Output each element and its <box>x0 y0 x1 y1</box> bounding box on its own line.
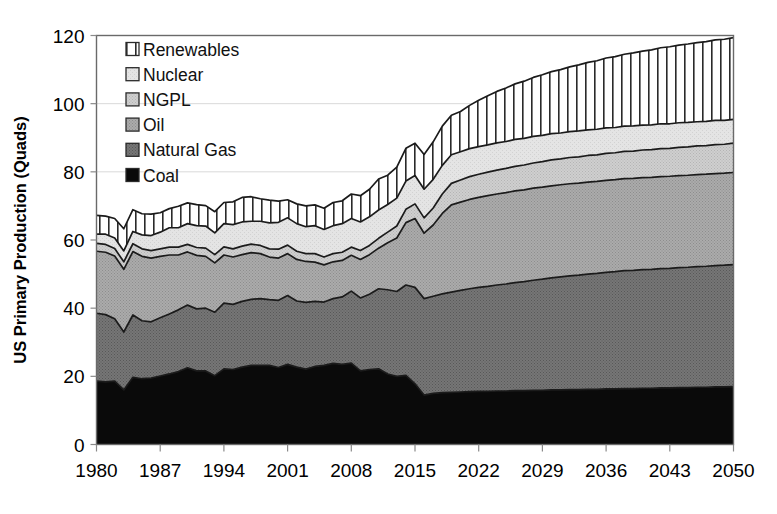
legend-label: Nuclear <box>143 65 203 85</box>
y-tick-label: 0 <box>74 435 85 456</box>
chart-figure: 020406080100120 198019871994200120082015… <box>0 0 777 514</box>
legend-label: Oil <box>143 115 164 135</box>
y-tick-label: 20 <box>63 366 84 387</box>
legend-swatch-icon <box>126 169 139 182</box>
y-tick-label: 80 <box>63 162 84 183</box>
legend-swatch-icon <box>126 93 139 106</box>
x-tick-label: 2022 <box>458 460 500 481</box>
legend-label: Natural Gas <box>143 140 237 160</box>
x-tick-label: 2015 <box>394 460 436 481</box>
x-tick-label: 2043 <box>649 460 691 481</box>
x-tick-label: 2001 <box>266 460 308 481</box>
stacked-area-chart: 020406080100120 198019871994200120082015… <box>0 0 777 514</box>
y-axis-title: US Primary Production (Quads) <box>11 116 29 364</box>
y-axis-ticks: 020406080100120 <box>53 26 97 456</box>
x-tick-label: 2036 <box>585 460 627 481</box>
x-axis-ticks: 1980198719942001200820152022202920362043… <box>75 445 754 481</box>
x-tick-label: 2029 <box>521 460 563 481</box>
x-tick-label: 2008 <box>330 460 372 481</box>
legend-label: Renewables <box>143 40 240 60</box>
legend-label: NGPL <box>143 90 191 110</box>
legend-item-natural-gas: Natural Gas <box>126 140 237 160</box>
x-tick-label: 2050 <box>712 460 754 481</box>
y-tick-label: 120 <box>53 26 85 47</box>
legend-label: Coal <box>143 166 179 186</box>
y-tick-label: 100 <box>53 94 85 115</box>
y-tick-label: 60 <box>63 230 84 251</box>
legend-item-renewables: Renewables <box>126 40 240 60</box>
y-tick-label: 40 <box>63 298 84 319</box>
x-tick-label: 1987 <box>139 460 181 481</box>
legend-swatch-icon <box>126 118 139 131</box>
legend-swatch-icon <box>126 43 139 56</box>
x-tick-label: 1994 <box>203 460 246 481</box>
legend-swatch-icon <box>126 68 139 81</box>
x-tick-label: 1980 <box>75 460 117 481</box>
legend-swatch-icon <box>126 143 139 156</box>
y-axis-title-text: US Primary Production (Quads) <box>11 116 29 364</box>
